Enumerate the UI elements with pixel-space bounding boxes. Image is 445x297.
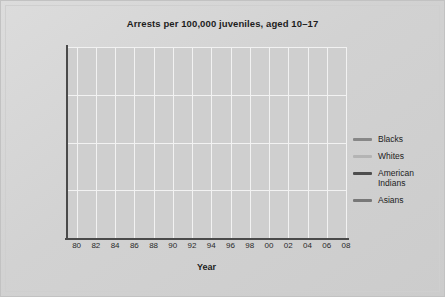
gridline-vertical	[231, 47, 232, 238]
gridline-horizontal	[67, 95, 346, 96]
legend-label: Blacks	[378, 134, 403, 144]
legend-label: American Indians	[378, 168, 414, 188]
gridline-horizontal	[67, 47, 346, 48]
x-tick-label: 84	[111, 241, 120, 250]
legend-swatch-icon	[353, 199, 372, 202]
gridline-vertical	[134, 47, 135, 238]
x-tick-label: 90	[168, 241, 177, 250]
legend-item[interactable]: Asians	[353, 195, 445, 205]
gridline-vertical	[250, 47, 251, 238]
legend-label: Whites	[378, 151, 404, 161]
gridline-vertical	[115, 47, 116, 238]
x-tick-label: 96	[226, 241, 235, 250]
x-axis-tick-labels: 808284868890929496980002040608	[1, 241, 445, 255]
gridline-vertical	[77, 47, 78, 238]
chart-title: Arrests per 100,000 juveniles, aged 10–1…	[1, 18, 444, 29]
x-tick-label: 92	[188, 241, 197, 250]
gridline-vertical	[192, 47, 193, 238]
y-axis-line	[66, 45, 68, 240]
gridline-vertical	[269, 47, 270, 238]
chart-legend: BlacksWhitesAmerican IndiansAsians	[353, 134, 445, 212]
legend-swatch-icon	[353, 155, 372, 158]
x-tick-label: 02	[284, 241, 293, 250]
x-axis-title: Year	[67, 262, 346, 272]
gridline-vertical	[211, 47, 212, 238]
gridline-vertical	[346, 47, 347, 238]
x-tick-label: 80	[72, 241, 81, 250]
gridline-vertical	[288, 47, 289, 238]
x-tick-label: 98	[245, 241, 254, 250]
gridline-vertical	[173, 47, 174, 238]
gridline-vertical	[96, 47, 97, 238]
x-tick-label: 00	[265, 241, 274, 250]
chart-figure: Arrests per 100,000 juveniles, aged 10–1…	[0, 0, 445, 297]
legend-swatch-icon	[353, 172, 372, 175]
legend-item[interactable]: Blacks	[353, 134, 445, 144]
x-tick-label: 08	[342, 241, 351, 250]
gridline-horizontal	[67, 143, 346, 144]
x-tick-label: 86	[130, 241, 139, 250]
gridline-horizontal	[67, 190, 346, 191]
x-tick-label: 88	[149, 241, 158, 250]
x-tick-label: 94	[207, 241, 216, 250]
x-axis-line	[65, 238, 349, 240]
gridline-vertical	[154, 47, 155, 238]
gridline-vertical	[308, 47, 309, 238]
plot-area	[67, 47, 346, 238]
x-tick-label: 82	[91, 241, 100, 250]
x-tick-label: 04	[303, 241, 312, 250]
legend-item[interactable]: American Indians	[353, 168, 445, 188]
legend-item[interactable]: Whites	[353, 151, 445, 161]
legend-swatch-icon	[353, 138, 372, 141]
legend-label: Asians	[378, 195, 404, 205]
x-tick-label: 06	[322, 241, 331, 250]
gridline-vertical	[327, 47, 328, 238]
